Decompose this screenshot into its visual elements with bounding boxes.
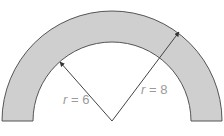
- inner-radius-label: r = 6: [63, 92, 89, 107]
- outer-radius-label: r = 8: [141, 82, 167, 97]
- shaded-region: [2, 11, 222, 121]
- annulus-diagram: r = 6 r = 8: [0, 0, 224, 136]
